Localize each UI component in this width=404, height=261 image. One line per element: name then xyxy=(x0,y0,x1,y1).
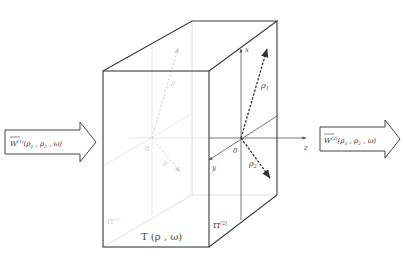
z-axis-label: z xyxy=(303,144,308,152)
hidden-rho1-label: ρ xyxy=(170,79,176,87)
back-plane-label: Π(1) xyxy=(107,217,120,226)
hidden-geometry: 0 ρ ρ Π(1) xyxy=(103,21,277,247)
output-field-arrow: W(2)(ρ1 , ρ2 , ω) xyxy=(320,120,400,158)
origin-label: 0 xyxy=(233,147,238,155)
rho2-vector xyxy=(241,138,270,178)
rho1-label: ρ1 xyxy=(260,81,269,91)
front-plane-label: Π(2) xyxy=(213,220,227,230)
y-axis-label: y xyxy=(211,164,217,172)
transfer-function-label: T (ρ , ω) xyxy=(141,231,182,242)
input-field-arrow: W(1)(ρ1 , ρ2 , ω) xyxy=(5,122,96,162)
hidden-origin-label: 0 xyxy=(145,145,150,153)
right-face-edges xyxy=(209,21,277,247)
hidden-y-axis xyxy=(103,114,192,166)
rho2-label: ρ2 xyxy=(248,159,257,169)
exit-plane-axes: x y z 0 ρ1 ρ2 xyxy=(209,46,308,220)
slab-box xyxy=(103,21,277,247)
top-face-edges xyxy=(103,21,277,71)
slab-diagram: 0 ρ ρ Π(1) x y z 0 ρ1 ρ2 T (ρ , ω) Π(2) xyxy=(0,0,404,261)
hidden-rho2-label: ρ xyxy=(162,159,168,167)
x-axis-label: x xyxy=(245,46,249,54)
